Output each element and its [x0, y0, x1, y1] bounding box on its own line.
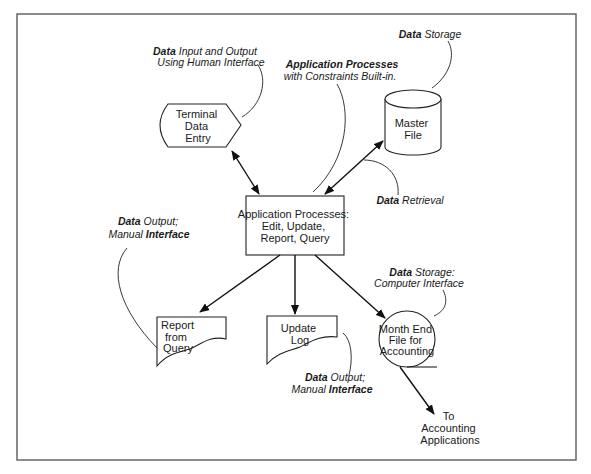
annotation-data-retrieval-bold: Data [376, 194, 399, 206]
annotation-data-storage-rest: Storage [422, 28, 462, 40]
annotation-data-storage-bold: Data [399, 28, 422, 40]
process-line-2: Edit, Update, [262, 220, 326, 232]
annotation-app-processes-line2: with Constraints Built-in. [284, 70, 397, 82]
edge-terminal-process [232, 151, 259, 194]
annotation-report-output: Data Output; Manual Interface [108, 215, 189, 240]
to-accounting-line-2: Accounting [421, 422, 475, 434]
master-file-node: Master File [385, 90, 441, 155]
annotation-log-output-line2-italic: Manual [291, 383, 328, 395]
annotation-app-processes: Application Processes with Constraints B… [284, 58, 399, 82]
svg-text:Data Storage: Data Storage [399, 28, 462, 40]
edge-monthend-accounting [400, 367, 434, 414]
callout-data-storage [432, 41, 451, 88]
terminal-line-2: Data [185, 120, 209, 132]
annotation-storage-computer: Data Storage: Computer Interface [374, 266, 464, 289]
report-from-query-node: Report from Query [157, 317, 226, 366]
to-accounting-applications-label: To Accounting Applications [420, 410, 480, 446]
annotation-terminal-io: Data Input and Output Using Human Interf… [153, 45, 265, 68]
annotation-log-output-rest: Output; [328, 371, 365, 383]
to-accounting-line-1: To [443, 410, 455, 422]
master-file-line-2: File [404, 129, 422, 141]
callout-report-output [118, 248, 157, 348]
callout-log-output [343, 333, 351, 375]
annotation-data-retrieval-rest: Retrieval [399, 194, 444, 206]
annotation-terminal-io-line2: Using Human Interface [157, 56, 265, 68]
update-log-node: Update Log [267, 316, 337, 364]
callout-app-processes [313, 84, 345, 192]
report-line-1: Report [161, 319, 194, 331]
annotation-report-output-line2-bold: Interface [146, 228, 190, 240]
flowchart-diagram: Terminal Data Entry Master File Applicat… [0, 0, 591, 474]
svg-text:Data Output;: Data Output; [118, 215, 178, 227]
update-log-line-2: Log [291, 334, 309, 346]
annotation-log-output-line2-bold: Interface [329, 383, 373, 395]
annotation-report-output-rest: Output; [141, 215, 178, 227]
terminal-line-3: Entry [185, 132, 211, 144]
callout-terminal-io [242, 65, 263, 117]
master-file-line-1: Master [395, 117, 429, 129]
svg-text:Data Retrieval: Data Retrieval [376, 194, 444, 206]
svg-text:To Accounting Appl: To Accounting Applications [420, 410, 480, 446]
month-end-line-3: Accounting [380, 345, 434, 357]
svg-text:Manual Interface: Manual Interface [291, 383, 372, 395]
process-line-1: Application Processes: [238, 208, 349, 220]
svg-text:Manual Interface: Manual Interface [108, 228, 189, 240]
report-line-3: Query [163, 342, 193, 354]
month-end-file-node: Month End File for Accounting [379, 311, 437, 367]
annotation-data-retrieval: Data Retrieval [376, 194, 444, 206]
application-processes-node: Application Processes: Edit, Update, Rep… [238, 196, 352, 255]
annotation-storage-computer-line2: Computer Interface [374, 277, 464, 289]
edge-masterfile-process [325, 141, 383, 194]
annotation-report-output-bold: Data [118, 215, 141, 227]
callout-storage-computer [434, 290, 446, 316]
callout-data-retrieval [364, 160, 398, 195]
annotation-data-storage: Data Storage [399, 28, 462, 40]
svg-text:Data Output;: Data Output; [305, 371, 365, 383]
edge-process-report [200, 255, 280, 312]
annotation-log-output: Data Output; Manual Interface [291, 371, 372, 395]
to-accounting-line-3: Applications [420, 434, 480, 446]
annotation-log-output-bold: Data [305, 371, 328, 383]
terminal-data-entry-node: Terminal Data Entry [160, 104, 241, 147]
process-line-3: Report, Query [260, 232, 330, 244]
terminal-line-1: Terminal [176, 108, 218, 120]
annotation-report-output-line2-italic: Manual [108, 228, 145, 240]
annotation-app-processes-bold: Application Processes [285, 58, 399, 70]
update-log-line-1: Update [281, 322, 316, 334]
